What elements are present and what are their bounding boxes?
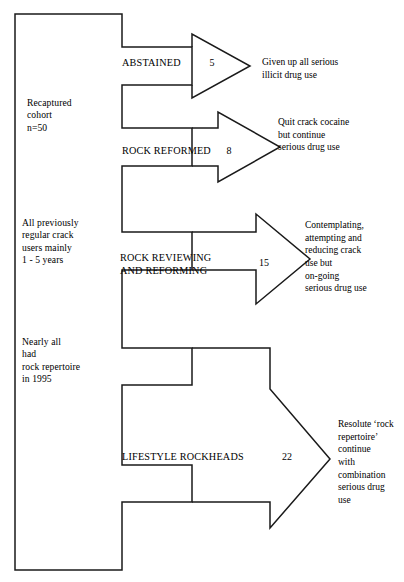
cohort-note-previous-use: All previously regular crack users mainl…	[22, 217, 79, 266]
branch-label-rock-reformed: ROCK REFORMED	[122, 144, 211, 157]
branch-outcome-abstained: Given up all serious illicit drug use	[262, 56, 402, 81]
branch-outcome-rock-reviewing-and-reforming: Contemplating, attempting and reducing c…	[305, 219, 404, 295]
flow-diagram: Recaptured cohort n=50 All previously re…	[0, 0, 404, 582]
branch-count-rock-reviewing-and-reforming: 15	[255, 257, 273, 270]
cohort-note-recaptured: Recaptured cohort n=50	[27, 97, 72, 134]
cohort-note-rock-repertoire: Nearly all had rock repertoire in 1995	[22, 336, 80, 385]
branch-count-lifestyle-rockheads: 22	[278, 451, 296, 464]
arrow-abstained	[192, 34, 250, 98]
branch-outcome-rock-reformed: Quit crack cocaine but continue serious …	[278, 116, 404, 154]
branch-outcome-lifestyle-rockheads: Resolute ‘rock repertoire’ continue with…	[338, 418, 404, 506]
branch-count-rock-reformed: 8	[222, 145, 236, 158]
branch-label-abstained: ABSTAINED	[122, 56, 181, 69]
arrow-lifestyle-rockheads	[192, 348, 330, 528]
branch-label-lifestyle-rockheads: LIFESTYLE ROCKHEADS	[122, 450, 244, 463]
branch-label-rock-reviewing-and-reforming: ROCK REVIEWING AND REFORMING	[120, 251, 211, 278]
branch-count-abstained: 5	[205, 57, 219, 70]
